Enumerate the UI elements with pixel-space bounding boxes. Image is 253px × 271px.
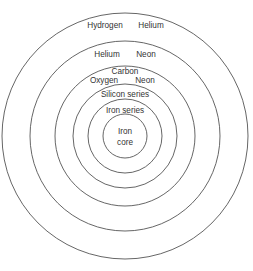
label-iron-series: Iron series <box>106 107 144 115</box>
label-helium-second: Helium <box>94 51 119 59</box>
label-helium-outer: Helium <box>138 22 163 30</box>
label-iron: Iron <box>118 128 132 136</box>
label-core: core <box>117 139 133 147</box>
label-neon-second: Neon <box>136 51 156 59</box>
label-carbon: Carbon <box>112 68 139 76</box>
label-hydrogen: Hydrogen <box>87 22 123 30</box>
label-silicon-series: Silicon series <box>101 91 149 99</box>
label-oxygen: Oxygen <box>90 77 118 85</box>
label-neon-third: Neon <box>135 77 155 85</box>
